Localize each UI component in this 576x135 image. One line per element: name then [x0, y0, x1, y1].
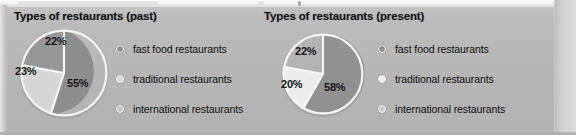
slice-label-past-3: 22%	[45, 35, 66, 47]
legend-past: fast food restaurants traditional restau…	[116, 38, 243, 120]
chart-past-title: Types of restaurants (past)	[14, 10, 157, 22]
legend-item-fast-food[interactable]: fast food restaurants	[378, 38, 505, 60]
chart-past-pie: 55% 23% 22%	[20, 29, 108, 117]
legend-bullet-international	[378, 105, 386, 113]
legend-label-fast-food: fast food restaurants	[395, 44, 489, 55]
legend-label-traditional: traditional restaurants	[133, 74, 232, 85]
slice-label-past-2: 23%	[15, 65, 36, 77]
slice-label-present-1: 58%	[324, 81, 345, 93]
legend-bullet-fast-food	[116, 45, 124, 53]
legend-item-international[interactable]: international restaurants	[116, 98, 243, 120]
chart-past: Types of restaurants (past)	[0, 0, 258, 135]
legend-bullet-traditional	[116, 75, 124, 83]
legend-label-international: international restaurants	[395, 104, 505, 115]
figure-panel: Types of restaurants (past)	[0, 0, 576, 135]
chart-present-title: Types of restaurants (present)	[264, 10, 424, 22]
slice-label-present-3: 22%	[295, 45, 316, 57]
legend-label-fast-food: fast food restaurants	[133, 44, 227, 55]
chart-present-pie: 58% 20% 22%	[282, 33, 364, 115]
legend-item-traditional[interactable]: traditional restaurants	[378, 68, 505, 90]
chart-present: Types of restaurants (present)	[258, 0, 576, 135]
legend-item-international[interactable]: international restaurants	[378, 98, 505, 120]
legend-bullet-traditional	[378, 75, 386, 83]
legend-bullet-fast-food	[378, 45, 386, 53]
legend-item-traditional[interactable]: traditional restaurants	[116, 68, 243, 90]
slice-label-present-2: 20%	[281, 78, 302, 90]
legend-bullet-international	[116, 105, 124, 113]
legend-item-fast-food[interactable]: fast food restaurants	[116, 38, 243, 60]
legend-present: fast food restaurants traditional restau…	[378, 38, 505, 120]
slice-label-past-1: 55%	[67, 77, 88, 89]
legend-label-traditional: traditional restaurants	[395, 74, 494, 85]
legend-label-international: international restaurants	[133, 104, 243, 115]
